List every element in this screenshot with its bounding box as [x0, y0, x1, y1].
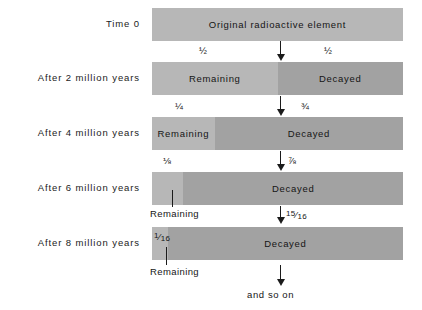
bar-caption-row-0: Original radioactive element [152, 8, 403, 41]
decay-arrow-4-shaft [280, 206, 281, 217]
fraction-numerator-row-4: 15 [286, 209, 296, 218]
decayed-label-row-1: Decayed [278, 62, 404, 95]
and-so-on-label: and so on [247, 289, 294, 300]
decayed-label-row-4: Decayed [168, 227, 403, 260]
fraction-decayed-row-1: ½ [324, 45, 332, 56]
remaining-leader-line-row-3 [172, 190, 173, 207]
fraction-remaining-row-2: ¼ [175, 100, 183, 111]
fraction-decayed-row-4: 15⁄16 [286, 209, 307, 221]
decay-arrow-2 [276, 96, 285, 116]
row-time-label-0: Time 0 [106, 18, 140, 29]
decay-arrow-1-shaft [280, 41, 281, 54]
decay-bar-row-3: Decayed [152, 172, 403, 205]
decay-arrow-3-shaft [280, 151, 281, 164]
decay-bar-row-0: Original radioactive element [152, 8, 403, 41]
remaining-label-row-2: Remaining [152, 117, 215, 150]
remaining-segment-row-3 [152, 172, 183, 205]
fraction-decayed-row-2: ¾ [301, 100, 309, 111]
fraction-denominator-row-5: 16 [161, 234, 171, 243]
fraction-remaining-row-5: 1⁄16 [154, 231, 170, 243]
decay-arrow-1 [276, 41, 285, 61]
decay-bar-row-2: Remaining Decayed [152, 117, 403, 150]
radioactive-decay-diagram: Time 0 Original radioactive element ½ ½ … [0, 0, 422, 310]
decay-arrow-3 [276, 151, 285, 171]
fraction-decayed-row-3: ⅞ [288, 155, 296, 166]
decay-arrow-1-head [277, 54, 285, 61]
fraction-denominator-row-4: 16 [297, 212, 307, 221]
decayed-label-row-2: Decayed [215, 117, 403, 150]
decay-arrow-2-head [277, 109, 285, 116]
decay-arrow-2-shaft [280, 96, 281, 109]
decay-arrow-5-head [277, 279, 285, 286]
decay-arrow-5 [276, 265, 285, 287]
row-time-label-1: After 2 million years [38, 72, 140, 83]
remaining-label-row-3: Remaining [150, 208, 199, 219]
decayed-label-row-3: Decayed [183, 172, 403, 205]
fraction-remaining-row-1: ½ [199, 45, 207, 56]
decay-arrow-5-shaft [280, 265, 281, 279]
decay-arrow-3-head [277, 164, 285, 171]
decay-bar-row-4: Decayed [152, 227, 403, 260]
remaining-leader-line-row-4 [166, 247, 167, 265]
decay-arrow-4-head [277, 217, 285, 224]
fraction-remaining-row-3: ⅛ [163, 155, 171, 166]
decay-arrow-4 [276, 206, 285, 226]
row-time-label-4: After 8 million years [38, 237, 140, 248]
remaining-label-row-4: Remaining [150, 266, 199, 277]
decay-bar-row-1: Remaining Decayed [152, 62, 403, 95]
remaining-label-row-1: Remaining [152, 62, 278, 95]
row-time-label-2: After 4 million years [38, 127, 140, 138]
row-time-label-3: After 6 million years [38, 182, 140, 193]
